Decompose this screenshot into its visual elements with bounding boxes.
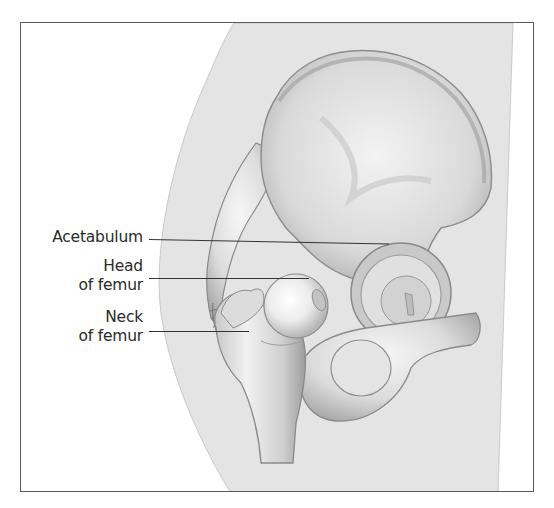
- label-neck-of-femur: Neck of femur: [21, 308, 143, 346]
- label-acetabulum: Acetabulum: [21, 228, 143, 247]
- obturator-foramen: [331, 340, 391, 396]
- label-line: Acetabulum: [21, 228, 143, 247]
- label-line: Neck: [21, 308, 143, 327]
- figure-frame: Acetabulum Head of femur Neck of femur: [20, 22, 534, 492]
- label-line: of femur: [21, 327, 143, 346]
- label-line: of femur: [21, 276, 143, 295]
- leader-line-neck-of-femur: [149, 331, 249, 332]
- leader-line-head-of-femur: [149, 278, 309, 279]
- label-head-of-femur: Head of femur: [21, 257, 143, 295]
- label-line: Head: [21, 257, 143, 276]
